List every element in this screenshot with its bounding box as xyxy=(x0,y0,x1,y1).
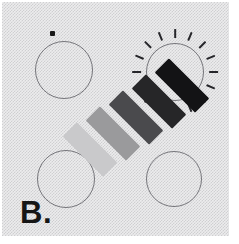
sun-ray xyxy=(206,55,215,60)
panel-label: B. xyxy=(20,197,52,228)
sun-ray xyxy=(144,41,152,49)
marker-dot xyxy=(50,31,55,36)
circle-top-left xyxy=(35,41,93,99)
figure-panel: B. xyxy=(0,0,239,244)
sun-ray xyxy=(158,32,163,41)
sun-ray xyxy=(135,55,144,60)
sun-ray xyxy=(187,32,192,41)
sun-ray xyxy=(209,71,218,73)
sun-ray xyxy=(174,29,176,38)
figure-canvas: B. xyxy=(2,2,229,236)
sun-ray xyxy=(132,71,141,73)
sun-ray xyxy=(206,84,215,89)
circle-bottom-right xyxy=(146,151,202,207)
sun-ray xyxy=(198,41,206,49)
